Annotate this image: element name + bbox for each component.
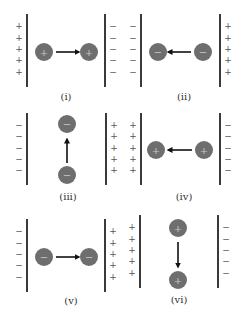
minus-sign-icon: − <box>15 165 23 175</box>
minus-sign-icon: − <box>222 256 230 266</box>
plus-sign-icon: + <box>174 223 182 234</box>
minus-sign-icon: − <box>15 249 23 259</box>
minus-sign-icon: − <box>224 154 232 164</box>
minus-sign-icon: − <box>109 44 117 54</box>
plus-sign-icon: + <box>110 165 118 175</box>
panel-label: (ii) <box>177 91 191 102</box>
minus-sign-icon: − <box>222 245 230 255</box>
minus-sign-icon: − <box>224 165 232 175</box>
panel-label: (vi) <box>171 294 188 305</box>
minus-sign-icon: − <box>129 44 137 54</box>
plus-sign-icon: + <box>128 256 136 266</box>
minus-sign-icon: − <box>222 268 230 278</box>
panel-2: −−−−−+++++−−(ii) <box>129 14 232 102</box>
minus-sign-icon: − <box>15 154 23 164</box>
minus-sign-icon: − <box>15 272 23 282</box>
minus-sign-icon: − <box>109 21 117 31</box>
plus-sign-icon: + <box>110 143 118 153</box>
plus-sign-icon: + <box>109 260 117 270</box>
plus-sign-icon: + <box>129 165 137 175</box>
minus-sign-icon: − <box>15 143 23 153</box>
plus-sign-icon: + <box>15 67 23 77</box>
plus-sign-icon: + <box>109 226 117 236</box>
plus-sign-icon: + <box>85 47 93 58</box>
minus-sign-icon: − <box>109 55 117 65</box>
plus-sign-icon: + <box>224 21 232 31</box>
minus-sign-icon: − <box>15 226 23 236</box>
plus-sign-icon: + <box>128 268 136 278</box>
panel-1: +++++−−−−−++(i) <box>15 14 117 102</box>
plus-sign-icon: + <box>224 33 232 43</box>
plus-sign-icon: + <box>224 55 232 65</box>
minus-sign-icon: − <box>63 170 71 181</box>
panel-label: (i) <box>60 91 71 102</box>
plus-sign-icon: + <box>129 131 137 141</box>
charged-plates-figure: +++++−−−−−++(i)−−−−−+++++−−(ii)−−−−−++++… <box>0 0 247 318</box>
minus-sign-icon: − <box>63 119 71 130</box>
plus-sign-icon: + <box>15 55 23 65</box>
plus-sign-icon: + <box>128 245 136 255</box>
panel-label: (iv) <box>176 191 193 202</box>
plus-sign-icon: + <box>129 154 137 164</box>
minus-sign-icon: − <box>224 143 232 153</box>
plus-sign-icon: + <box>109 238 117 248</box>
plus-sign-icon: + <box>174 275 182 286</box>
plus-sign-icon: + <box>152 145 160 156</box>
minus-sign-icon: − <box>15 260 23 270</box>
plus-sign-icon: + <box>110 131 118 141</box>
plus-sign-icon: + <box>109 249 117 259</box>
minus-sign-icon: − <box>222 222 230 232</box>
minus-sign-icon: − <box>129 55 137 65</box>
plus-sign-icon: + <box>224 67 232 77</box>
panel-3: −−−−−+++++−−(iii) <box>15 113 118 202</box>
minus-sign-icon: − <box>109 33 117 43</box>
plus-sign-icon: + <box>110 154 118 164</box>
minus-sign-icon: − <box>129 21 137 31</box>
minus-sign-icon: − <box>199 47 207 58</box>
plus-sign-icon: + <box>109 272 117 282</box>
panel-label: (iii) <box>59 191 76 202</box>
panel-4: +++++−−−−−++(iv) <box>129 113 232 202</box>
plus-sign-icon: + <box>110 120 118 130</box>
panel-6: +++++−−−−−++(vi) <box>128 215 230 305</box>
plus-sign-icon: + <box>129 120 137 130</box>
plus-sign-icon: + <box>128 222 136 232</box>
plus-sign-icon: + <box>200 145 208 156</box>
panel-5: −−−−−+++++−−(v) <box>15 219 117 306</box>
plus-sign-icon: + <box>15 44 23 54</box>
minus-sign-icon: − <box>129 67 137 77</box>
minus-sign-icon: − <box>224 131 232 141</box>
panel-label: (v) <box>64 295 78 306</box>
minus-sign-icon: − <box>154 47 162 58</box>
minus-sign-icon: − <box>15 120 23 130</box>
minus-sign-icon: − <box>129 33 137 43</box>
minus-sign-icon: − <box>109 67 117 77</box>
plus-sign-icon: + <box>224 44 232 54</box>
minus-sign-icon: − <box>224 120 232 130</box>
minus-sign-icon: − <box>15 238 23 248</box>
plus-sign-icon: + <box>128 234 136 244</box>
plus-sign-icon: + <box>15 21 23 31</box>
plus-sign-icon: + <box>129 143 137 153</box>
plus-sign-icon: + <box>40 47 48 58</box>
minus-sign-icon: − <box>15 131 23 141</box>
plus-sign-icon: + <box>15 33 23 43</box>
minus-sign-icon: − <box>85 252 93 263</box>
minus-sign-icon: − <box>40 252 48 263</box>
minus-sign-icon: − <box>222 234 230 244</box>
panels-group: +++++−−−−−++(i)−−−−−+++++−−(ii)−−−−−++++… <box>15 14 232 306</box>
